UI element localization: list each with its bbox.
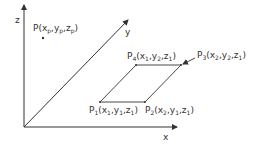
vertex-p2 [144, 101, 146, 103]
y-axis-label: y [125, 27, 131, 37]
vertex-p1 [99, 101, 101, 103]
p3-pointer-arrow-icon [183, 58, 195, 64]
point-p-marker [42, 37, 44, 39]
point-p-label: P(xp,yp,zp) [33, 23, 78, 35]
z-axis-label: z [15, 15, 20, 25]
vertex-p3-label: P3(x2,y2,z1) [197, 50, 246, 61]
rectangle-p1-p2-p3-p4 [100, 65, 181, 102]
vertex-p3 [180, 64, 182, 66]
vertex-p4 [135, 64, 137, 66]
x-axis-label: x [163, 132, 169, 142]
diagram-canvas: z x y P(xp,yp,zp) P1(x1,y1,z1) P2(x2,y1,… [0, 0, 262, 149]
vertex-p1-label: P1(x1,y1,z1) [89, 105, 138, 116]
vertex-p2-label: P2(x2,y1,z1) [145, 105, 194, 116]
vertex-p4-label: P4(x1,y2,z1) [127, 51, 176, 62]
